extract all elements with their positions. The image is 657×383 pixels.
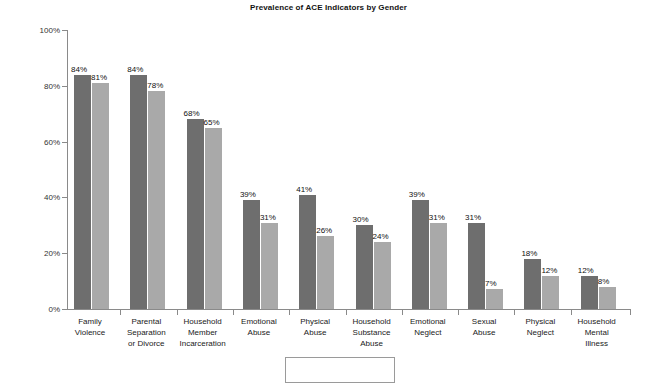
category-label-line: Incarceration — [167, 338, 239, 349]
category-label-line: Mental — [561, 327, 633, 338]
bar-value-label: 30% — [353, 215, 369, 224]
bar-male[interactable] — [412, 200, 429, 309]
chart-title: Prevalence of ACE Indicators by Gender — [0, 3, 657, 12]
x-axis-tick — [630, 310, 631, 315]
bar-value-label: 81% — [91, 73, 107, 82]
bar-female[interactable] — [317, 236, 334, 309]
bar-female[interactable] — [205, 128, 222, 309]
bar-male[interactable] — [581, 276, 598, 309]
x-axis-tick — [458, 310, 459, 315]
bar-value-label: 31% — [465, 213, 481, 222]
bar-female[interactable] — [430, 223, 447, 309]
x-axis-tick — [289, 310, 290, 315]
y-axis-tick — [62, 197, 67, 198]
bar-group: 39%31% — [237, 30, 293, 309]
category-label-line: Abuse — [336, 338, 408, 349]
x-axis-tick — [514, 310, 515, 315]
bar-value-label: 24% — [373, 232, 389, 241]
bar-value-label: 41% — [296, 185, 312, 194]
y-axis-tick-label: 20% — [44, 249, 60, 258]
y-axis-tick — [62, 253, 67, 254]
bar-group: 84%78% — [124, 30, 180, 309]
y-axis-tick-label: 40% — [44, 193, 60, 202]
bar-female[interactable] — [374, 242, 391, 309]
bar-male[interactable] — [299, 195, 316, 309]
bar-female[interactable] — [148, 91, 165, 309]
bar-male[interactable] — [187, 119, 204, 309]
y-axis-tick-label: 80% — [44, 81, 60, 90]
bar-male[interactable] — [524, 259, 541, 309]
bar-value-label: 12% — [541, 266, 557, 275]
bar-group: 30%24% — [350, 30, 406, 309]
bar-male[interactable] — [130, 75, 147, 309]
y-axis-tick-label: 60% — [44, 137, 60, 146]
x-axis-tick — [233, 310, 234, 315]
bar-value-label: 84% — [127, 65, 143, 74]
y-axis-tick — [62, 309, 67, 310]
bar-group: 84%81% — [68, 30, 124, 309]
bar-female[interactable] — [486, 289, 503, 309]
y-axis-tick-label: 0% — [48, 305, 60, 314]
bar-female[interactable] — [542, 276, 559, 309]
bar-value-label: 31% — [429, 213, 445, 222]
x-axis-tick — [177, 310, 178, 315]
bar-value-label: 39% — [409, 190, 425, 199]
x-axis-tick — [402, 310, 403, 315]
bar-group: 18%12% — [518, 30, 574, 309]
bar-group: 12%8% — [575, 30, 631, 309]
bar-value-label: 12% — [578, 266, 594, 275]
x-axis-tick — [120, 310, 121, 315]
x-axis-tick — [346, 310, 347, 315]
bar-value-label: 84% — [71, 65, 87, 74]
bar-male[interactable] — [74, 75, 91, 309]
category-label-line: Household — [561, 316, 633, 327]
bar-value-label: 18% — [521, 249, 537, 258]
bar-value-label: 65% — [204, 118, 220, 127]
x-axis-line — [67, 309, 631, 310]
y-axis-tick — [62, 142, 67, 143]
bar-female[interactable] — [599, 287, 616, 309]
bar-male[interactable] — [356, 225, 373, 309]
bar-male[interactable] — [468, 223, 485, 309]
bar-group: 39%31% — [406, 30, 462, 309]
bar-group: 31%7% — [462, 30, 518, 309]
y-axis-tick-label: 100% — [40, 26, 60, 35]
bar-value-label: 78% — [147, 81, 163, 90]
bar-group: 41%26% — [293, 30, 349, 309]
bar-value-label: 39% — [240, 190, 256, 199]
bar-female[interactable] — [261, 223, 278, 309]
bar-female[interactable] — [92, 83, 109, 309]
x-axis-category-label: HouseholdMentalIllness — [561, 316, 633, 349]
chart-legend — [285, 357, 395, 383]
bar-value-label: 7% — [485, 279, 497, 288]
category-label-line: Illness — [561, 338, 633, 349]
bar-value-label: 31% — [260, 213, 276, 222]
y-axis-tick — [62, 30, 67, 31]
y-axis-tick-labels: 0%20%40%60%80%100% — [0, 30, 60, 309]
bar-group: 68%65% — [181, 30, 237, 309]
bar-value-label: 8% — [598, 277, 610, 286]
x-axis-tick — [571, 310, 572, 315]
plot-area: 84%81%84%78%68%65%39%31%41%26%30%24%39%3… — [67, 30, 630, 309]
bar-value-label: 68% — [184, 109, 200, 118]
bar-male[interactable] — [243, 200, 260, 309]
bar-value-label: 26% — [316, 226, 332, 235]
y-axis-tick — [62, 86, 67, 87]
